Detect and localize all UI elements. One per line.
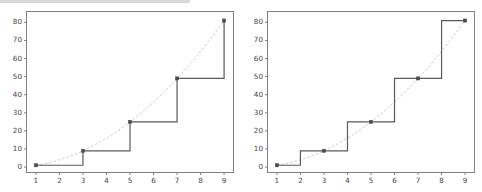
- y-tick-label: 40: [13, 90, 23, 99]
- x-tick-label: 1: [34, 176, 39, 185]
- x-tick-label: 2: [298, 176, 303, 185]
- step-line: [277, 21, 465, 166]
- y-tick-label: 70: [13, 35, 23, 44]
- data-point-marker: [322, 149, 325, 152]
- y-tick-label: 20: [13, 126, 23, 135]
- x-tick-label: 6: [392, 176, 397, 185]
- x-tick-label: 9: [222, 176, 227, 185]
- figure-root: 01020304050607080123456789 0102030405060…: [0, 0, 482, 192]
- y-tick-label: 80: [254, 17, 264, 26]
- y-tick-label: 10: [254, 144, 264, 153]
- step-mid-chart: 01020304050607080123456789: [241, 0, 482, 192]
- chart-panel-left: 01020304050607080123456789: [0, 0, 241, 192]
- y-tick-label: 30: [13, 108, 23, 117]
- x-tick-label: 6: [151, 176, 156, 185]
- reference-dashed-curve: [277, 21, 465, 166]
- y-tick-label: 40: [254, 90, 264, 99]
- x-axis: 123456789: [34, 173, 227, 186]
- plot-frame: [268, 12, 475, 173]
- y-tick-label: 60: [254, 54, 264, 63]
- x-tick-label: 4: [104, 176, 109, 185]
- x-tick-label: 3: [322, 176, 327, 185]
- y-tick-label: 20: [254, 126, 264, 135]
- y-tick-label: 30: [254, 108, 264, 117]
- y-tick-label: 80: [13, 17, 23, 26]
- x-tick-label: 9: [463, 176, 468, 185]
- x-tick-label: 2: [57, 176, 62, 185]
- y-tick-label: 70: [254, 35, 264, 44]
- data-point-marker: [369, 120, 372, 123]
- data-point-marker: [275, 164, 278, 167]
- data-point-marker: [222, 19, 225, 22]
- x-tick-label: 7: [175, 176, 180, 185]
- step-post-chart: 01020304050607080123456789: [0, 0, 241, 192]
- x-tick-label: 8: [439, 176, 444, 185]
- y-axis: 01020304050607080: [13, 17, 27, 171]
- step-line: [36, 21, 224, 166]
- y-tick-label: 10: [13, 144, 23, 153]
- data-point-marker: [128, 120, 131, 123]
- y-axis: 01020304050607080: [254, 17, 268, 171]
- x-tick-label: 4: [345, 176, 350, 185]
- x-tick-label: 8: [198, 176, 203, 185]
- y-tick-label: 0: [258, 162, 263, 171]
- x-tick-label: 1: [275, 176, 280, 185]
- data-point-markers: [275, 19, 466, 167]
- x-axis: 123456789: [275, 173, 468, 186]
- x-tick-label: 5: [369, 176, 374, 185]
- y-tick-label: 50: [254, 72, 264, 81]
- data-point-marker: [463, 19, 466, 22]
- y-tick-label: 50: [13, 72, 23, 81]
- data-point-marker: [175, 77, 178, 80]
- x-tick-label: 7: [416, 176, 421, 185]
- x-tick-label: 5: [128, 176, 133, 185]
- y-tick-label: 0: [17, 162, 22, 171]
- chart-panel-right: 01020304050607080123456789: [241, 0, 482, 192]
- data-point-marker: [34, 164, 37, 167]
- data-point-marker: [416, 77, 419, 80]
- y-tick-label: 60: [13, 54, 23, 63]
- x-tick-label: 3: [81, 176, 86, 185]
- data-point-marker: [81, 149, 84, 152]
